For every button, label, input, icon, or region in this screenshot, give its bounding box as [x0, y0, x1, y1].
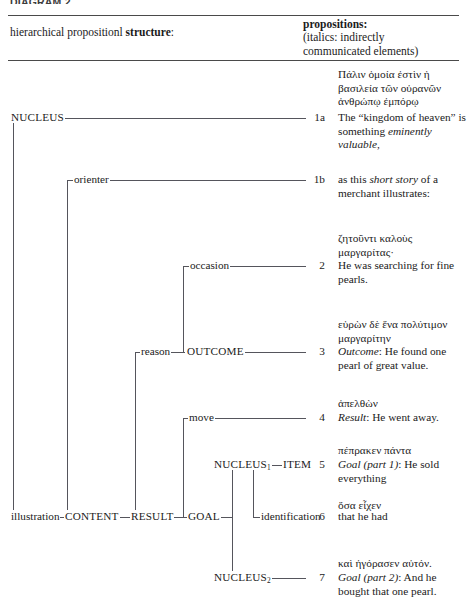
- row-number: 5: [303, 458, 325, 470]
- proposition-english: He was searching for fine pearls.: [338, 259, 467, 286]
- node-nucleus[interactable]: NUCLEUS: [10, 111, 65, 123]
- trunk-nucleus: [13, 119, 14, 517]
- node-nucleus-2[interactable]: NUCLEUS2: [213, 571, 272, 583]
- greek-text: ζητοῦντι καλοὺς μαργαρίτας·: [338, 232, 467, 259]
- column-header-structure: hierarchical propositionl structure:: [10, 26, 174, 38]
- column-header-propositions: propositions: (italics: indirectly commu…: [303, 18, 467, 58]
- greek-text: καὶ ἠγόρασεν αὐτόν.: [338, 557, 467, 571]
- header-right-title: propositions:: [303, 18, 467, 31]
- node-outcome[interactable]: OUTCOME: [186, 345, 245, 357]
- english-pre: as this: [338, 173, 369, 185]
- english-italic: short story: [369, 173, 418, 185]
- header-right-note-2: communicated elements): [303, 45, 467, 58]
- header-left-plain: hierarchical propositionl: [10, 26, 126, 38]
- node-nucleus-1[interactable]: NUCLEUS1: [213, 458, 272, 470]
- row-number: 1b: [303, 173, 325, 185]
- proposition-english: Goal (part 1): He sold everything: [338, 458, 467, 485]
- row-number: 7: [303, 571, 325, 583]
- node-move[interactable]: move: [188, 411, 215, 423]
- trunk-move: [183, 419, 184, 517]
- header-right-note-1: (italics: indirectly: [303, 31, 467, 44]
- edge-occasion-to-row2: [225, 266, 306, 267]
- trunk-orienter: [67, 181, 68, 517]
- greek-text: Πάλιν ὁμοία ἐστὶν ἡ βασιλεία τῶν οὐρανῶν…: [338, 68, 467, 109]
- node-nucleus-1-subscript: 1: [267, 463, 271, 472]
- header-left-colon: :: [171, 26, 174, 38]
- english-italic: Result: [338, 411, 366, 423]
- row-number: 4: [303, 411, 325, 423]
- node-result[interactable]: RESULT: [130, 510, 174, 522]
- node-nucleus-2-subscript: 2: [267, 576, 271, 585]
- node-occasion[interactable]: occasion: [189, 259, 230, 271]
- proposition-english: Outcome: He found one pearl of great val…: [338, 345, 467, 372]
- node-content[interactable]: CONTENT: [64, 510, 120, 522]
- node-orienter[interactable]: orienter: [73, 173, 110, 185]
- proposition-row: ἀπελθὼν: [338, 397, 467, 411]
- header-rule-bottom: [8, 60, 459, 61]
- header-rule-top: [8, 15, 459, 16]
- english-italic: Outcome: [338, 345, 379, 357]
- row-number: 3: [303, 345, 325, 357]
- proposition-english: The “kingdom of heaven” is something emi…: [338, 111, 467, 152]
- edge-outcome-to-row3: [235, 352, 306, 353]
- english-pre: that he had: [338, 510, 388, 522]
- proposition-row: καὶ ἠγόρασεν αὐτόν.: [338, 557, 467, 571]
- row-number: 1a: [303, 111, 325, 123]
- proposition-english: Goal (part 2): And he bought that one pe…: [338, 571, 467, 598]
- greek-text: εὑρὼν δὲ ἕνα πολύτιμον μαργαρίτην: [338, 318, 467, 345]
- trunk-occasion: [183, 267, 184, 353]
- trunk-goal-spine: [232, 466, 233, 578]
- node-goal[interactable]: GOAL: [187, 510, 221, 522]
- proposition-row: εὑρὼν δὲ ἕνα πολύτιμον μαργαρίτην: [338, 318, 467, 345]
- node-illustration[interactable]: illustration: [10, 510, 60, 522]
- proposition-row: ζητοῦντι καλοὺς μαργαρίτας·: [338, 232, 467, 259]
- trunk-reason: [135, 353, 136, 517]
- header-left-bold: structure: [126, 26, 171, 38]
- edge-orienter-to-row1b: [110, 180, 306, 181]
- english-italic: Goal (part 1): [338, 458, 398, 470]
- figure-caption: DIAGRAM 2: [10, 0, 71, 4]
- edge-nucleus2-to-row7: [268, 578, 306, 579]
- greek-text: πέπρακεν πάντα: [338, 444, 467, 458]
- proposition-english: that he had: [338, 510, 467, 524]
- trunk-identification: [253, 466, 254, 517]
- proposition-row: Πάλιν ὁμοία ἐστὶν ἡ βασιλεία τῶν οὐρανῶν…: [338, 68, 467, 109]
- row-number: 2: [303, 259, 325, 271]
- edge-move-to-row4: [212, 418, 306, 419]
- row-number: 6: [303, 510, 325, 522]
- english-post: : He went away.: [366, 411, 439, 423]
- proposition-row: πέπρακεν πάντα: [338, 444, 467, 458]
- greek-text: ἀπελθὼν: [338, 397, 467, 411]
- node-reason[interactable]: reason: [140, 345, 171, 357]
- edge-nucleus-to-row1a: [61, 118, 306, 119]
- english-pre: He was searching for fine pearls.: [338, 259, 454, 285]
- edge-goal-tail: [221, 517, 231, 518]
- proposition-english: as this short story of a merchant illust…: [338, 173, 467, 200]
- proposition-english: Result: He went away.: [338, 411, 467, 425]
- english-italic: Goal (part 2): [338, 571, 398, 583]
